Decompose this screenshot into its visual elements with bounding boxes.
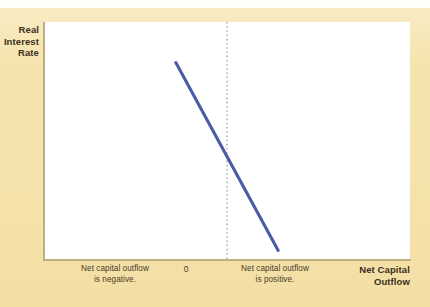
negative-caption-line-2: is negative. [55,275,175,286]
y-axis-title: Real Interest Rate [0,24,39,59]
x-axis-title-line-2: Outflow [330,276,410,288]
y-axis-title-line-3: Rate [0,47,39,59]
positive-caption-line-2: is positive. [215,275,335,286]
positive-caption-line-1: Net capital outflow [215,264,335,275]
positive-region-caption: Net capital outflow is positive. [215,264,335,285]
net-capital-outflow-figure: Real Interest Rate Net capital outflow i… [0,0,430,307]
negative-region-caption: Net capital outflow is negative. [55,264,175,285]
page-top-edge [0,0,430,8]
curve-layer [44,22,410,260]
y-axis-title-line-1: Real [0,24,39,36]
x-axis-title-line-1: Net Capital [330,264,410,276]
x-axis-title: Net Capital Outflow [330,264,410,287]
y-axis-title-line-2: Interest [0,36,39,48]
x-axis-zero-tick-label: 0 [172,264,200,274]
negative-caption-line-1: Net capital outflow [55,264,175,275]
